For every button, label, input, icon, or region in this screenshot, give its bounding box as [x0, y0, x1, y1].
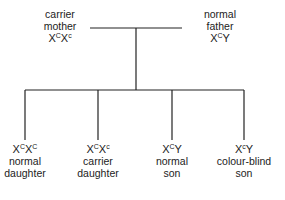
child-3-status: normal — [156, 155, 188, 167]
child-1: XCXC normal daughter — [0, 143, 65, 179]
mother-label: carrier mother XCXc — [20, 8, 100, 44]
mother-genotype: XCXc — [20, 32, 100, 44]
child-4: XcY colour-blind son — [204, 143, 284, 179]
father-genotype: XCY — [180, 32, 260, 44]
child-1-genotype: XCXC — [0, 143, 65, 155]
child-2-status: carrier — [83, 155, 113, 167]
child-4-status: colour-blind — [217, 155, 271, 167]
child-3-genotype: XCY — [132, 143, 212, 155]
father-role: normal — [204, 8, 236, 20]
mother-role: carrier — [45, 8, 75, 20]
child-3: XCY normal son — [132, 143, 212, 179]
father-label: normal father XCY — [180, 8, 260, 44]
father-relation: father — [207, 20, 234, 32]
child-1-status: normal — [9, 155, 41, 167]
child-2: XCXc carrier daughter — [58, 143, 138, 179]
child-4-sex: son — [236, 167, 253, 179]
child-1-sex: daughter — [4, 167, 45, 179]
child-3-sex: son — [164, 167, 181, 179]
child-2-sex: daughter — [77, 167, 118, 179]
child-4-genotype: XcY — [204, 143, 284, 155]
mother-relation: mother — [44, 20, 77, 32]
child-2-genotype: XCXc — [58, 143, 138, 155]
